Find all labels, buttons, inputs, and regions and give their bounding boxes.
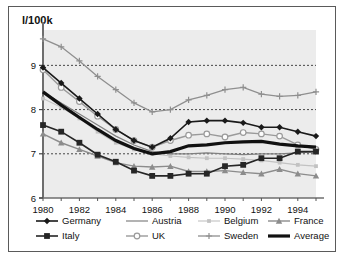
data-point xyxy=(40,122,46,128)
data-point xyxy=(240,162,246,168)
data-point xyxy=(113,159,119,165)
legend-item-uk[interactable]: UK xyxy=(126,230,166,241)
data-point xyxy=(222,134,228,140)
legend-label-italy: Italy xyxy=(62,230,80,241)
data-point xyxy=(313,149,319,155)
legend-item-sweden[interactable]: Sweden xyxy=(198,230,258,241)
data-point xyxy=(259,131,265,137)
data-point xyxy=(95,152,101,158)
data-point xyxy=(204,131,210,137)
line-chart-svg: 678919801982198419861988199019921994Germ… xyxy=(0,0,344,259)
x-tick-label-1982: 1982 xyxy=(69,204,90,215)
x-tick-label-1994: 1994 xyxy=(287,204,308,215)
data-point xyxy=(186,132,192,138)
x-tick-label-1990: 1990 xyxy=(214,204,235,215)
legend-label-germany: Germany xyxy=(62,215,101,226)
legend-label-average: Average xyxy=(294,230,329,241)
legend-label-belgium: Belgium xyxy=(224,215,258,226)
x-tick-label-1992: 1992 xyxy=(251,204,272,215)
chart-canvas: 678919801982198419861988199019921994Germ… xyxy=(0,0,344,259)
y-tick-label-8: 8 xyxy=(31,104,36,115)
legend-marker-sweden xyxy=(206,233,212,239)
x-tick-label-1980: 1980 xyxy=(32,204,53,215)
data-point xyxy=(240,130,246,136)
chart-screenshot: l/100k 678919801982198419861988199019921… xyxy=(0,0,344,259)
x-tick-label-1986: 1986 xyxy=(142,204,163,215)
data-point xyxy=(277,155,283,161)
data-point xyxy=(168,173,174,179)
data-point xyxy=(241,157,245,161)
y-tick-label-7: 7 xyxy=(31,148,36,159)
legend-item-italy[interactable]: Italy xyxy=(36,230,80,241)
x-tick-label-1984: 1984 xyxy=(105,204,126,215)
data-point xyxy=(295,149,301,155)
plot-background xyxy=(43,30,316,198)
data-point xyxy=(187,155,191,159)
legend-label-uk: UK xyxy=(152,230,166,241)
data-point xyxy=(314,164,318,168)
data-point xyxy=(223,156,227,160)
data-point xyxy=(204,171,210,177)
data-point xyxy=(149,173,155,179)
data-point xyxy=(278,161,282,165)
legend-marker-germany xyxy=(44,218,50,224)
legend-item-austria[interactable]: Austria xyxy=(126,215,182,226)
legend-item-france[interactable]: France xyxy=(268,215,324,226)
data-point xyxy=(169,154,173,158)
legend-marker-belgium xyxy=(207,219,211,223)
legend-marker-uk xyxy=(134,233,140,239)
data-point xyxy=(77,140,83,146)
data-point xyxy=(277,133,283,139)
y-tick-label-6: 6 xyxy=(31,193,36,204)
data-point xyxy=(186,171,192,177)
legend-marker-italy xyxy=(44,233,50,239)
y-tick-label-9: 9 xyxy=(31,60,36,71)
legend-label-sweden: Sweden xyxy=(224,230,258,241)
legend-label-france: France xyxy=(294,215,324,226)
legend-label-austria: Austria xyxy=(152,215,182,226)
data-point xyxy=(205,156,209,160)
x-tick-label-1988: 1988 xyxy=(178,204,199,215)
data-point xyxy=(131,168,137,174)
data-point xyxy=(222,163,228,169)
data-point xyxy=(58,129,64,135)
data-point xyxy=(41,97,45,101)
legend-item-average[interactable]: Average xyxy=(268,230,329,241)
legend-item-belgium[interactable]: Belgium xyxy=(198,215,258,226)
legend-item-germany[interactable]: Germany xyxy=(36,215,101,226)
data-point xyxy=(259,155,265,161)
data-point xyxy=(296,163,300,167)
